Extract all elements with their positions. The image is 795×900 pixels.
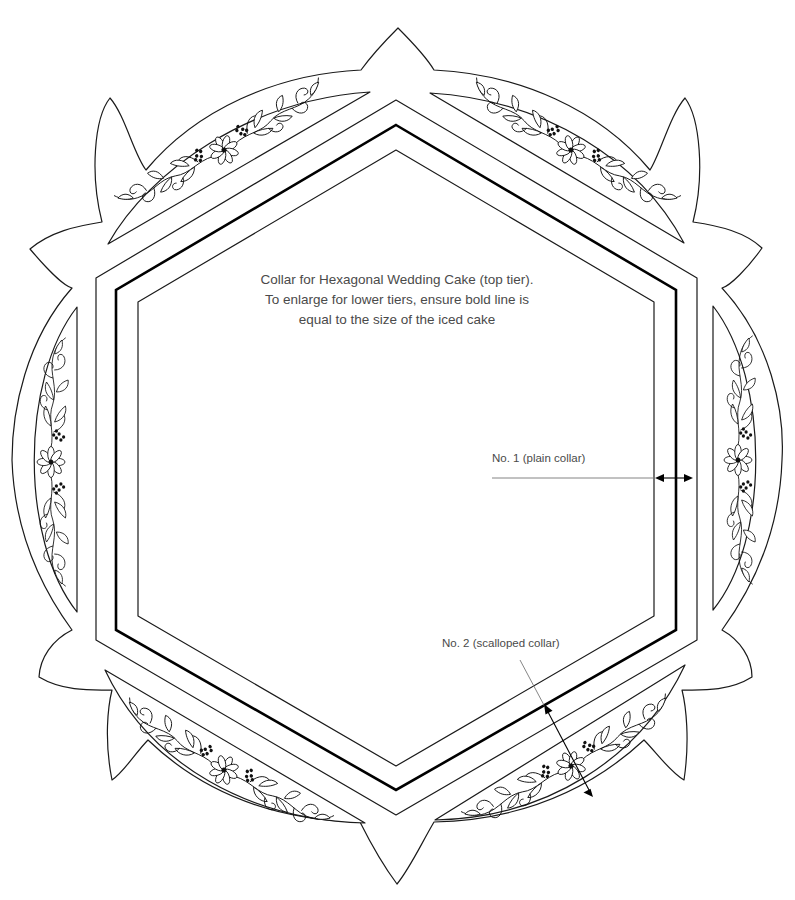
- instruction-line-2: To enlarge for lower tiers, ensure bold …: [197, 290, 597, 310]
- plain-collar-callout-arrow: [492, 474, 693, 482]
- plain-collar-label: No. 1 (plain collar): [492, 452, 585, 464]
- collar-diagram: [0, 0, 795, 900]
- scalloped-outline: [12, 28, 782, 884]
- outer-hexagon: [96, 100, 697, 815]
- instruction-line-3: equal to the size of the iced cake: [197, 310, 597, 330]
- instruction-text: Collar for Hexagonal Wedding Cake (top t…: [197, 270, 597, 330]
- decorative-panel-bottom-left: [105, 670, 365, 842]
- bold-hexagon: [116, 125, 676, 790]
- instruction-line-1: Collar for Hexagonal Wedding Cake (top t…: [197, 270, 597, 290]
- scalloped-collar-label: No. 2 (scalloped collar): [442, 637, 560, 649]
- decorative-panel-bottom-right: [435, 665, 685, 838]
- decorative-panel-top-right: [430, 75, 684, 243]
- decorative-panel-right: [713, 306, 756, 610]
- decorative-panel-left: [34, 307, 77, 612]
